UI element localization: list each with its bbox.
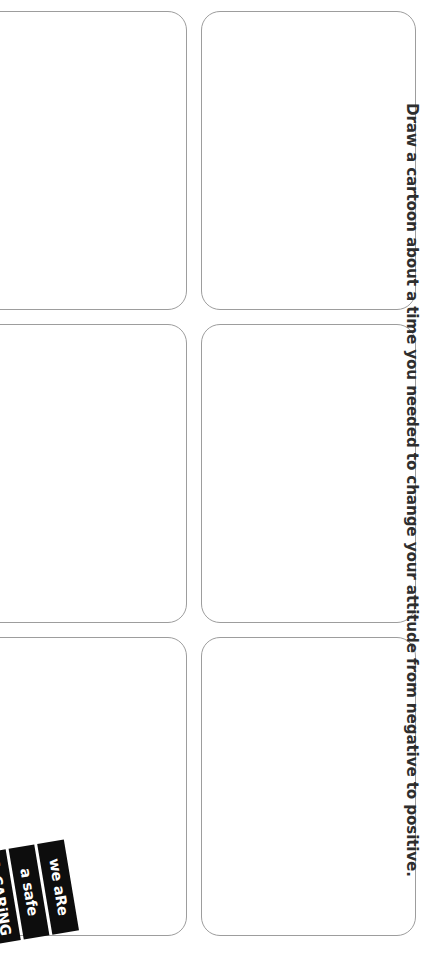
cartoon-panel-6[interactable]	[201, 637, 416, 936]
cartoon-panel-4[interactable]	[201, 324, 416, 623]
stamp-line-1: we aRe	[46, 857, 70, 916]
cartoon-panel-2[interactable]	[201, 11, 416, 310]
cartoon-panel-1[interactable]	[0, 11, 187, 310]
stamp-line-2: a safe	[18, 867, 40, 917]
cartoon-panel-3[interactable]	[0, 324, 187, 623]
cartoon-panel-grid	[0, 11, 416, 936]
worksheet-prompt-text: Draw a cartoon about a time you needed t…	[403, 103, 421, 877]
worksheet-page: Draw a cartoon about a time you needed t…	[0, 0, 445, 955]
